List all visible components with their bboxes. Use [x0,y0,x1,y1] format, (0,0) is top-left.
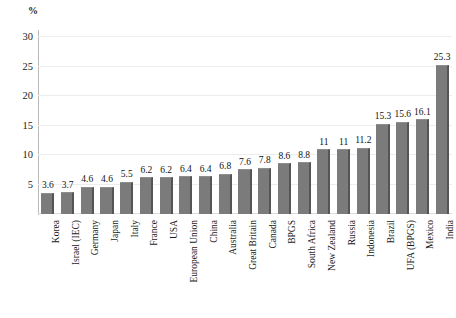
bar-value-label: 5.5 [121,170,133,180]
y-tick-label: 30 [23,32,34,43]
bar[interactable] [238,169,251,214]
bar[interactable] [61,192,74,214]
x-category-label: Italy [131,220,141,237]
bar-group[interactable]: 11 [317,37,330,214]
x-category-label: South Africa [308,220,318,268]
bar-value-label: 6.2 [160,166,172,176]
bar[interactable] [199,176,212,214]
bar-group[interactable]: 3.7 [61,37,74,214]
y-tick-label: 15 [23,121,34,132]
bar[interactable] [219,174,232,214]
bar-value-label: 8.6 [278,152,290,162]
x-category-label: BPGS [288,220,298,244]
bar-group[interactable]: 6.2 [160,37,173,214]
plot-area: 3.63.74.64.65.56.26.26.46.46.87.67.88.68… [38,37,452,214]
x-category-label: Indonesia [367,220,377,257]
y-tick-label: 20 [23,91,34,102]
bar-value-label: 15.3 [375,112,392,122]
y-tick-label: 5 [28,180,33,191]
bar[interactable] [298,162,311,214]
bar-group[interactable]: 6.4 [199,37,212,214]
bar-value-label: 4.6 [101,175,113,185]
bar-value-label: 8.8 [298,151,310,161]
x-category-label: Germany [91,220,101,255]
bar-value-label: 11 [339,138,348,148]
bar[interactable] [140,177,153,214]
bar-value-label: 6.4 [200,165,212,175]
bar[interactable] [376,124,389,214]
x-category-label: European Union [190,220,200,283]
bar-group[interactable]: 11.2 [357,37,370,214]
bar-group[interactable]: 15.6 [396,37,409,214]
bar[interactable] [416,119,429,214]
bar[interactable] [337,149,350,214]
bar-value-label: 15.6 [394,110,411,120]
x-category-label: Canada [269,220,279,249]
y-tick-label: 10 [23,150,34,161]
bar-group[interactable]: 6.8 [219,37,232,214]
x-category-label: New Zealand [328,220,338,271]
bar-value-label: 7.8 [259,156,271,166]
y-tick-label: 25 [23,62,34,73]
bar-group[interactable]: 5.5 [120,37,133,214]
bar-value-label: 7.6 [239,158,251,168]
bar[interactable] [396,122,409,214]
x-category-label: Israel (IEC) [72,220,82,265]
x-category-label: Mexico [426,220,436,249]
bar-group[interactable]: 8.8 [298,37,311,214]
bar-group[interactable]: 25.3 [436,37,449,214]
bar-group[interactable]: 4.6 [100,37,113,214]
bar[interactable] [436,65,449,214]
x-category-label: India [446,220,456,240]
x-axis-category-labels: KoreaIsrael (IEC)GermanyJapanItalyFrance… [38,214,452,318]
bar[interactable] [81,187,94,214]
x-category-label: France [150,220,160,246]
bar-group[interactable]: 8.6 [278,37,291,214]
y-axis-tick-labels: 51015202530 [0,0,38,318]
bar-value-label: 6.2 [140,166,152,176]
x-category-label: Korea [52,220,62,243]
bar-group[interactable]: 4.6 [81,37,94,214]
bar-group[interactable]: 6.2 [140,37,153,214]
bar[interactable] [120,182,133,214]
bar[interactable] [179,176,192,214]
x-category-label: USA [170,220,180,239]
bar-group[interactable]: 6.4 [179,37,192,214]
bar-group[interactable]: 11 [337,37,350,214]
bar[interactable] [41,193,54,214]
bar-chart: % 51015202530 3.63.74.64.65.56.26.26.46.… [0,0,456,318]
bar-value-label: 11 [319,138,328,148]
x-category-label: Great Britain [249,220,259,270]
bar-value-label: 4.6 [81,175,93,185]
x-category-label: Russia [348,220,358,245]
bar-group[interactable]: 3.6 [41,37,54,214]
x-category-label: UFA (BPGS) [407,220,417,270]
bar[interactable] [357,148,370,214]
bar[interactable] [258,168,271,214]
bar-value-label: 11.2 [355,136,371,146]
bar-value-label: 6.8 [219,162,231,172]
bar-group[interactable]: 7.8 [258,37,271,214]
bar[interactable] [317,149,330,214]
bar-value-label: 3.7 [62,181,74,191]
bar-value-label: 6.4 [180,165,192,175]
bar-group[interactable]: 15.3 [376,37,389,214]
bar[interactable] [160,177,173,214]
x-category-label: Australia [229,220,239,255]
bar[interactable] [278,163,291,214]
bar-value-label: 3.6 [42,181,54,191]
bar-group[interactable]: 16.1 [416,37,429,214]
bar[interactable] [100,187,113,214]
x-category-label: China [210,220,220,243]
bar-group[interactable]: 7.6 [238,37,251,214]
x-category-label: Japan [111,220,121,242]
bars-layer: 3.63.74.64.65.56.26.26.46.46.87.67.88.68… [38,37,452,214]
bar-value-label: 25.3 [434,53,451,63]
x-category-label: Brazil [387,220,397,243]
bar-value-label: 16.1 [414,108,431,118]
